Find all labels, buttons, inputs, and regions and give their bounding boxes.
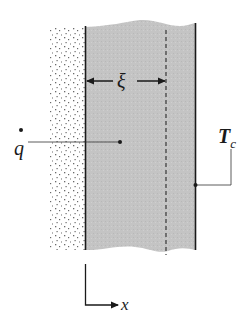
solid-layer-region: [85, 20, 195, 252]
heat-flux-leader-dot: [118, 140, 122, 144]
temperature-subscript: c: [230, 136, 236, 151]
temperature-leader-line: [195, 149, 231, 185]
temperature-label: Tc: [218, 126, 236, 146]
x-axis-arrow: [86, 264, 119, 305]
diagram-canvas: [0, 0, 252, 322]
temperature-main: T: [218, 125, 230, 147]
front-distance-label: ξ: [117, 71, 126, 91]
temperature-leader-dot: [194, 183, 198, 187]
heat-flux-label: q: [14, 138, 24, 158]
x-axis-label: x: [121, 296, 129, 313]
heat-flux-dot-accent: [19, 128, 23, 132]
stippled-wall-region: [50, 27, 85, 250]
